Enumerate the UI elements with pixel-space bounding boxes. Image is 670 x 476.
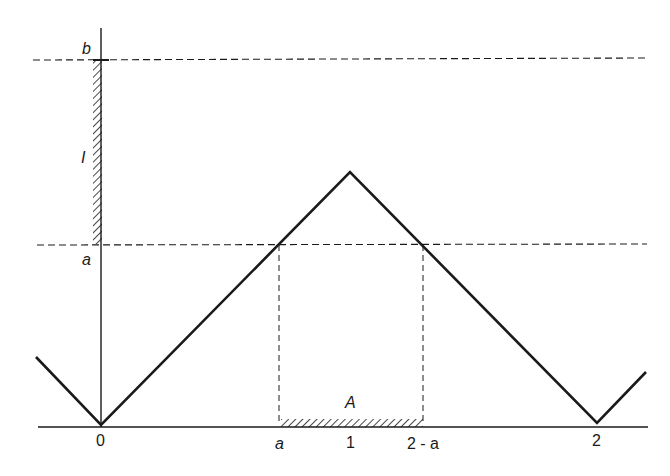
diagram-canvas: b I a 0 a 1 2 - a 2 A	[0, 0, 670, 476]
label-0: 0	[96, 432, 105, 449]
label-b: b	[82, 40, 91, 57]
label-I: I	[81, 149, 86, 166]
interval-I-hatched	[93, 60, 102, 244]
label-a-x: a	[275, 435, 284, 452]
label-2: 2	[592, 432, 601, 449]
set-A-hatched	[281, 419, 423, 427]
label-a-y: a	[82, 251, 91, 268]
triangle-wave-graph	[36, 172, 646, 425]
label-1: 1	[346, 434, 355, 451]
label-2-minus-a: 2 - a	[407, 435, 439, 452]
label-A: A	[344, 394, 356, 411]
level-b-dashed-line	[33, 58, 647, 60]
level-a-dashed-line	[37, 244, 647, 245]
